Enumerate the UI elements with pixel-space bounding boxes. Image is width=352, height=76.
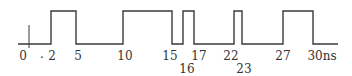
time-label: 27 — [275, 50, 290, 62]
time-label: 16 — [179, 63, 194, 75]
time-label: 5 — [74, 50, 82, 62]
time-label: 0 — [19, 50, 27, 62]
time-label: 22 — [223, 50, 238, 62]
time-label: 10 — [117, 50, 132, 62]
timing-diagram: 0.251015161722232730ns — [0, 0, 352, 76]
time-label: 30ns — [307, 50, 336, 62]
time-label: 23 — [236, 63, 251, 75]
time-label: 2 — [48, 50, 56, 62]
pulse-waveform — [18, 11, 338, 44]
time-label: 17 — [191, 50, 206, 62]
waveform — [0, 0, 352, 76]
time-label: 15 — [162, 50, 177, 62]
time-label: . — [40, 48, 44, 60]
